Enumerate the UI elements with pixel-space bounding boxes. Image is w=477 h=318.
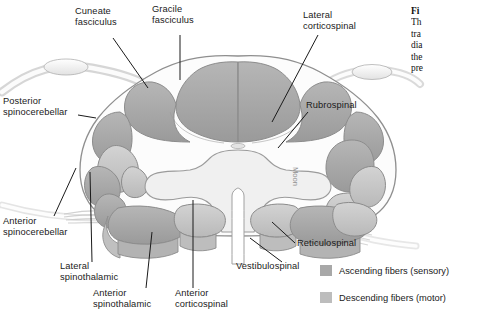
figure-caption: Fi Th tra dia the pre	[411, 6, 477, 76]
legend-item-descending: Descending fibers (motor)	[320, 292, 446, 303]
anterior-median-fissure	[232, 188, 244, 264]
legend-label-descending: Descending fibers (motor)	[339, 293, 446, 303]
label-gracile-fasciculus: Gracile fasciculus	[152, 4, 194, 25]
caption-line-5: the	[411, 52, 422, 62]
label-posterior-spinocerebellar: Posterior spinocerebellar	[3, 96, 68, 117]
label-lateral-corticospinal: Lateral corticospinal	[303, 10, 356, 31]
label-vestibulospinal: Vestibulospinal	[236, 261, 300, 272]
label-cuneate-fasciculus: Cuneate fasciculus	[75, 6, 117, 27]
leader-posterior-spinocerebellar	[78, 115, 96, 118]
caption-line-1: Fi	[411, 6, 419, 16]
anterior-corticospinal-shape-left	[174, 204, 225, 237]
label-reticulospinal: Reticulospinal	[297, 238, 356, 249]
legend-item-ascending: Ascending fibers (sensory)	[320, 265, 449, 276]
legend-swatch-descending	[320, 292, 332, 303]
artist-signature: Moon	[291, 167, 300, 186]
nerve-root-left-posterior	[2, 59, 152, 92]
legend-swatch-ascending	[320, 265, 332, 276]
caption-line-6: pre	[411, 63, 423, 73]
caption-line-4: dia	[411, 40, 422, 50]
label-anterior-corticospinal: Anterior corticospinal	[175, 288, 228, 309]
label-rubrospinal: Rubrospinal	[306, 100, 357, 111]
leader-anterior-spinocerebellar	[54, 168, 76, 216]
legend-label-ascending: Ascending fibers (sensory)	[339, 266, 449, 276]
caption-line-2: Th	[411, 17, 421, 27]
label-lateral-spinothalamic: Lateral spinothalamic	[60, 261, 118, 282]
figure-canvas: Cuneate fasciculus Gracile fasciculus La…	[0, 0, 477, 318]
label-anterior-spinocerebellar: Anterior spinocerebellar	[3, 216, 68, 237]
caption-line-3: tra	[411, 29, 421, 39]
label-anterior-spinothalamic: Anterior spinothalamic	[93, 288, 151, 309]
